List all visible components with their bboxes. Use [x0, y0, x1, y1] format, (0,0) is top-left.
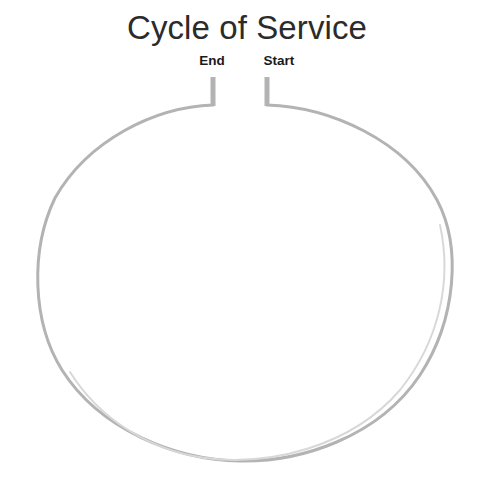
node-label-start: Start	[252, 53, 306, 69]
page-title: Cycle of Service	[0, 8, 494, 48]
node-label-end: End	[190, 53, 234, 69]
cycle-of-service-diagram: Cycle of Service End Start	[0, 0, 494, 487]
cycle-loop-graphic	[0, 0, 494, 487]
cycle-loop-inner-highlight	[70, 225, 444, 460]
